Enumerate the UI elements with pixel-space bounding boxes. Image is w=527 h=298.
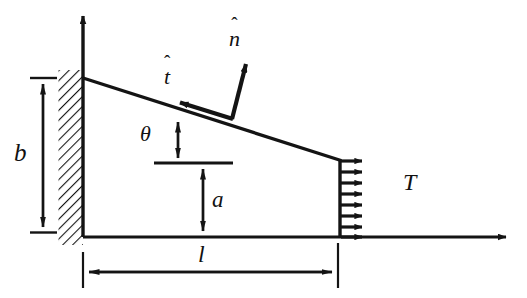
label-traction-T: T xyxy=(403,170,416,194)
figure-canvas: b a l T θ ˆ n ˆ t xyxy=(0,0,527,298)
label-t-hat: ˆ t xyxy=(164,58,170,88)
diagram-svg xyxy=(0,0,527,298)
dimension-b xyxy=(30,78,57,233)
label-b: b xyxy=(14,140,27,165)
label-l: l xyxy=(198,242,205,266)
n-hat-base: n xyxy=(229,28,240,50)
label-n-hat: ˆ n xyxy=(229,20,240,50)
dimension-l xyxy=(83,243,338,288)
traction-arrow-group xyxy=(341,161,362,237)
label-a: a xyxy=(212,188,224,211)
beam-inclined-edge xyxy=(83,78,341,161)
t-hat-base: t xyxy=(164,66,170,88)
wall-hatching xyxy=(59,70,84,245)
n-hat-vector xyxy=(232,64,246,119)
fixed-wall xyxy=(59,70,84,245)
label-theta: θ xyxy=(140,123,151,145)
